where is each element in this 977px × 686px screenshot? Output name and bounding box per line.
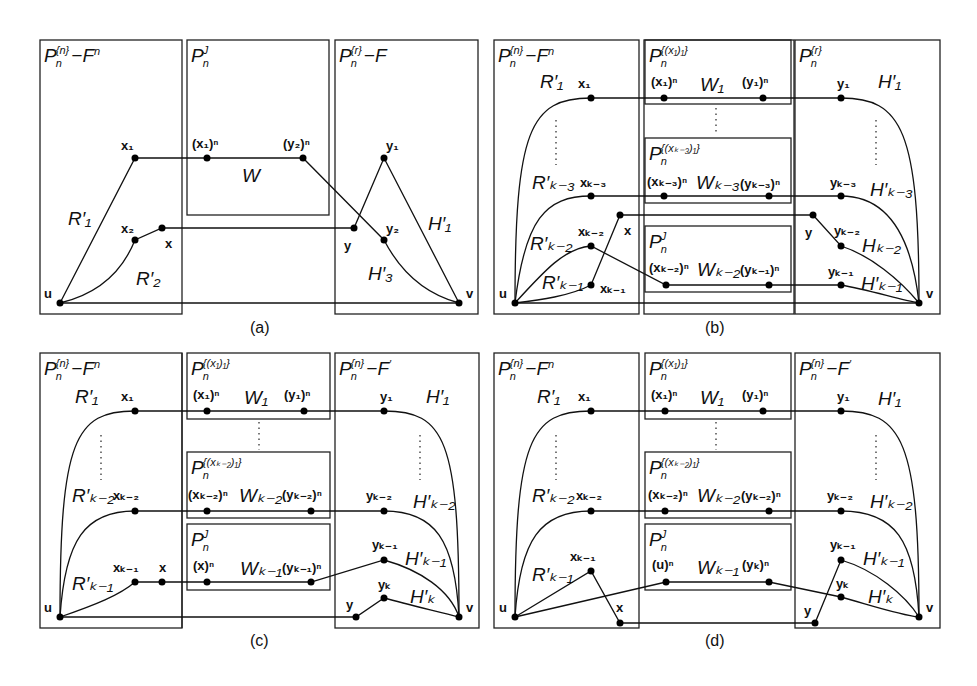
label-v: v [466,286,474,301]
label-Hk: H′ₖ [410,586,436,607]
vertex-v [456,300,463,307]
vertex-yk2 [381,508,388,515]
vertex-x [159,225,166,232]
label-Rk2: R′ₖ₋₂ [72,485,115,506]
label-Hk2: H′ₖ₋₂ [413,491,456,512]
label-yk2: yₖ₋₂ [827,488,853,503]
vertex-y1n [760,95,767,102]
vertex-u [57,614,64,621]
vertex-y2 [381,237,388,244]
vertex-y [351,225,358,232]
label-R1: R′₁ [540,71,563,92]
label-y1: y₁ [386,138,399,153]
label-v: v [466,600,474,615]
vertex-y1 [838,408,845,415]
vertex-yk1n [766,282,773,289]
panel-c: Pn{n}−Fn Pn{(x₁)₁} Pn{(xₖ₋₂)₁} PnJ Pn{n}… [40,353,479,649]
label-x1: x₁ [121,389,134,404]
label-Hk1: H′ₖ₋₁ [405,548,446,569]
vertex-y2n [300,155,307,162]
label-yk: yₖ [378,577,391,592]
label-H1: H′₁ [878,388,901,409]
label-yk1: yₖ₋₁ [830,537,856,552]
vertex-x2 [132,237,139,244]
label-xk2: xₖ₋₂ [113,488,139,503]
vertex-y1n [760,408,767,415]
label-W1: W₁ [244,387,268,408]
label-y2: y₂ [386,221,399,236]
vertex-v [916,300,923,307]
vertex-xk2 [132,508,139,515]
label-yk1: yₖ₋₁ [828,264,854,279]
vertex-x [617,212,624,219]
label-Wk3: Wₖ₋₃ [696,172,740,193]
vertex-xk2n [204,508,211,515]
label-Hk: H′ₖ [868,586,894,607]
vertex-yk [381,595,388,602]
label-Hk1: H′ₖ₋₁ [861,273,902,294]
caption-d: (d) [705,632,725,649]
box-x1-label: Pn{(x₁)₁} [191,357,230,382]
label-u: u [499,286,507,301]
vertex-xk2 [588,508,595,515]
caption-b: (b) [705,319,725,336]
label-Rk2: R′ₖ₋₂ [530,233,573,254]
label-yk1n: (yₖ₋₁)ⁿ [282,560,321,575]
label-yk: yₖ [836,576,849,591]
label-y1: y₁ [837,76,850,91]
label-y1: y₁ [380,389,393,404]
path-1 [515,411,919,617]
label-xk3: xₖ₋₃ [580,175,606,190]
vertex-xk2n [662,508,669,515]
label-H1: H′₁ [426,386,449,407]
figure-canvas: Pn{n}−Fn PnJ Pn{r}−F u v x₁ (x₁)ⁿ (y₂)ⁿ … [0,0,977,686]
vertex-yk1 [838,282,845,289]
label-Hk3: H′ₖ₋₃ [870,179,913,200]
label-H1: H′₁ [878,71,901,92]
label-v: v [926,286,934,301]
label-yk2: yₖ₋₂ [834,223,860,238]
vertex-un [663,579,670,586]
label-xk3n: (xₖ₋₃)ⁿ [647,174,687,189]
label-xn: (x)ⁿ [193,558,214,573]
box-right-label: Pn{r}−F [339,44,388,69]
label-yk2: yₖ₋₂ [366,488,392,503]
box-J-label: PnJ [191,528,209,553]
label-v: v [926,600,934,615]
label-Wk2: Wₖ₋₂ [697,485,741,506]
label-yk3: yₖ₋₃ [830,175,856,190]
label-H3: H′₃ [368,263,393,284]
label-x1: x₁ [121,138,134,153]
label-y: y [804,603,812,618]
vertex-u [57,300,64,307]
label-un: (u)ⁿ [652,557,674,572]
vertex-y1 [381,408,388,415]
vertex-x1n [661,95,668,102]
label-ykn: (yₖ)ⁿ [742,557,769,572]
vertex-yk1n [308,579,315,586]
label-y1n: (y₁)ⁿ [742,74,768,89]
panel-b: Pn{n}−Fn Pn{(x₁)₁} Pn{(xₖ₋₃)₁} PnJ Pn{r} [494,40,940,336]
box-left [40,40,182,314]
label-xk2n: (xₖ₋₂)ⁿ [188,487,228,502]
box-right-label: Pn{n}−F′ [339,357,392,382]
vertex-xk3n [661,193,668,200]
box-left-label: Pn{n}−Fn [498,357,554,382]
vertex-x1n [204,155,211,162]
vertex-u [512,300,519,307]
box-xk2-label: Pn{(xₖ₋₂)₁} [649,456,700,481]
label-W1: W₁ [700,74,724,95]
path-u-W-k [515,582,919,617]
label-u: u [44,600,52,615]
label-R1: R′₁ [75,386,98,407]
label-x: x [624,223,632,238]
label-y1n: (y₁)ⁿ [284,387,310,402]
vertex-x [159,579,166,586]
box-right [335,353,479,628]
label-Hk2: Hₖ₋₂ [862,235,902,256]
box-xk3-label: Pn{(xₖ₋₃)₁} [649,142,700,167]
vertex-xk2 [588,243,595,250]
label-Wk2: Wₖ₋₂ [239,485,283,506]
label-x: x [159,560,167,575]
label-x1n: (x₁)ⁿ [651,74,677,89]
